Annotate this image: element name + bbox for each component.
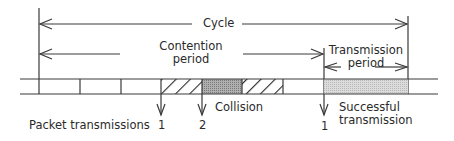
slot-hatched bbox=[161, 79, 202, 94]
successful-label-line2: transmission bbox=[339, 114, 412, 127]
contention-label-line2: period bbox=[150, 53, 232, 66]
contention-period-label: Contention period bbox=[150, 40, 232, 66]
slot-hatched bbox=[242, 79, 283, 94]
cycle-label: Cycle bbox=[203, 17, 234, 30]
packet-marker-3: 1 bbox=[321, 120, 328, 133]
slot-successful bbox=[324, 79, 408, 94]
collision-label: Collision bbox=[215, 101, 263, 114]
packet-marker-2: 2 bbox=[199, 119, 206, 132]
packet-marker-1: 1 bbox=[158, 119, 165, 132]
packet-arrow-1 bbox=[157, 94, 165, 115]
transmission-period-label: Transmission period bbox=[324, 44, 408, 70]
transmission-label-line2: period bbox=[324, 57, 408, 70]
slot-row bbox=[161, 79, 408, 94]
packet-transmissions-label: Packet transmissions bbox=[29, 119, 150, 132]
packet-arrow-2 bbox=[198, 94, 206, 115]
slot-collision bbox=[202, 79, 242, 94]
successful-transmission-label: Successful transmission bbox=[339, 101, 412, 127]
